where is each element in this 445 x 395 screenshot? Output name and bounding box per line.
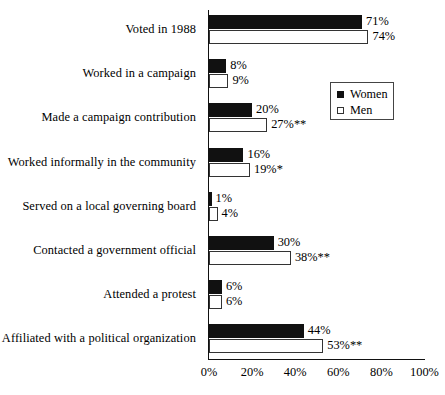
value-label-men: 74% xyxy=(368,28,395,45)
bar-women: 6% xyxy=(209,280,222,294)
category-label: Affiliated with a political organization xyxy=(0,329,196,348)
bar-men: 19%* xyxy=(209,163,250,177)
bar-group: Contacted a government official30%38%** xyxy=(0,236,445,266)
bar-rect-men xyxy=(209,118,267,132)
bar-group: Voted in 198871%74% xyxy=(0,15,445,45)
tick-label: 20% xyxy=(229,364,275,381)
bar-rect-men xyxy=(209,74,228,88)
value-label-men: 27%** xyxy=(267,116,306,133)
bar-men: 4% xyxy=(209,207,218,221)
legend-swatch-men-icon xyxy=(337,107,344,114)
bar-women: 30% xyxy=(209,236,274,250)
legend-swatch-women-icon xyxy=(337,91,344,98)
bar-group: Worked informally in the community16%19%… xyxy=(0,148,445,178)
bar-men: 53%** xyxy=(209,339,323,353)
bar-men: 38%** xyxy=(209,251,291,265)
value-label-men: 6% xyxy=(222,293,243,310)
bar-men: 6% xyxy=(209,295,222,309)
value-label-men: 9% xyxy=(228,72,249,89)
bar-rect-men xyxy=(209,295,222,309)
bar-rect-women xyxy=(209,103,252,117)
tick-label: 60% xyxy=(315,364,361,381)
bar-group: Affiliated with a political organization… xyxy=(0,324,445,354)
category-label: Made a campaign contribution xyxy=(0,108,196,127)
bar-women: 8% xyxy=(209,59,226,73)
legend-label-men: Men xyxy=(350,103,372,118)
plot-area: Voted in 198871%74%Worked in a campaign8… xyxy=(0,0,445,395)
bar-women: 44% xyxy=(209,324,304,338)
value-label-men: 19%* xyxy=(250,161,283,178)
tick-label: 80% xyxy=(358,364,404,381)
bar-rect-men xyxy=(209,30,368,44)
bar-men: 27%** xyxy=(209,118,267,132)
bar-rect-women xyxy=(209,148,243,162)
bar-chart: Voted in 198871%74%Worked in a campaign8… xyxy=(0,0,445,395)
category-label: Voted in 1988 xyxy=(0,20,196,39)
tick-label: 100% xyxy=(402,364,445,381)
bar-group: Attended a protest6%6% xyxy=(0,280,445,310)
bar-men: 74% xyxy=(209,30,368,44)
value-label-men: 38%** xyxy=(291,249,330,266)
category-label: Served on a local governing board xyxy=(0,197,196,216)
tick-label: 40% xyxy=(272,364,318,381)
legend-item-women: Women xyxy=(337,86,393,102)
value-label-men: 4% xyxy=(218,205,239,222)
tick-label: 0% xyxy=(186,364,232,381)
bar-rect-men xyxy=(209,251,291,265)
bar-women: 71% xyxy=(209,15,362,29)
bar-rect-men xyxy=(209,339,323,353)
bar-rect-men xyxy=(209,207,218,221)
bar-rect-men xyxy=(209,163,250,177)
category-label: Contacted a government official xyxy=(0,241,196,260)
bar-women: 20% xyxy=(209,103,252,117)
category-label: Attended a protest xyxy=(0,285,196,304)
value-label-men: 53%** xyxy=(323,337,362,354)
legend-label-women: Women xyxy=(350,87,388,102)
legend: Women Men xyxy=(330,82,394,120)
bar-women: 1% xyxy=(209,192,212,206)
bar-men: 9% xyxy=(209,74,228,88)
legend-item-men: Men xyxy=(337,102,393,118)
category-label: Worked in a campaign xyxy=(0,64,196,83)
bar-women: 16% xyxy=(209,148,243,162)
bar-rect-women xyxy=(209,280,222,294)
x-axis-line xyxy=(208,359,425,360)
bar-rect-women xyxy=(209,15,362,29)
category-label: Worked informally in the community xyxy=(0,153,196,172)
bar-rect-women xyxy=(209,236,274,250)
bar-rect-women xyxy=(209,59,226,73)
bar-rect-women xyxy=(209,324,304,338)
bar-group: Served on a local governing board1%4% xyxy=(0,192,445,222)
